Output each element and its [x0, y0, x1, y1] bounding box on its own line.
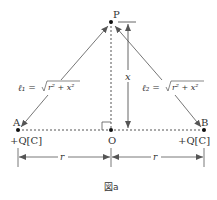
svg-text:r² + x²: r² + x² — [48, 83, 75, 92]
l1-arrow-lower — [21, 95, 48, 127]
point-a — [16, 128, 20, 132]
figure-caption: 図a — [104, 182, 119, 192]
point-o — [109, 128, 113, 132]
point-p — [109, 20, 113, 24]
label-a: A — [12, 117, 21, 128]
l2-arrow-upper — [115, 26, 162, 80]
r-left-label: r — [60, 152, 65, 162]
x-label: x — [125, 71, 131, 82]
coulomb-diagram: x P A B O +Q[C] +Q[C] ℓ₁ = r² + x² ℓ₂ = … — [0, 0, 217, 200]
l1-arrow-upper — [61, 26, 108, 80]
point-b — [202, 128, 206, 132]
svg-text:ℓ₁ =: ℓ₁ = — [18, 83, 36, 93]
label-b: B — [201, 117, 208, 128]
l2-arrow-lower — [175, 95, 201, 127]
label-p: P — [113, 9, 120, 20]
charge-b: +Q[C] — [178, 135, 210, 146]
l2-label: ℓ₂ = r² + x² — [142, 81, 204, 93]
charge-a: +Q[C] — [10, 135, 42, 146]
r-right-label: r — [153, 152, 158, 162]
label-o: O — [108, 135, 116, 146]
svg-text:r² + x²: r² + x² — [172, 83, 199, 92]
svg-text:ℓ₂ =: ℓ₂ = — [142, 83, 160, 93]
l1-label: ℓ₁ = r² + x² — [18, 81, 80, 93]
